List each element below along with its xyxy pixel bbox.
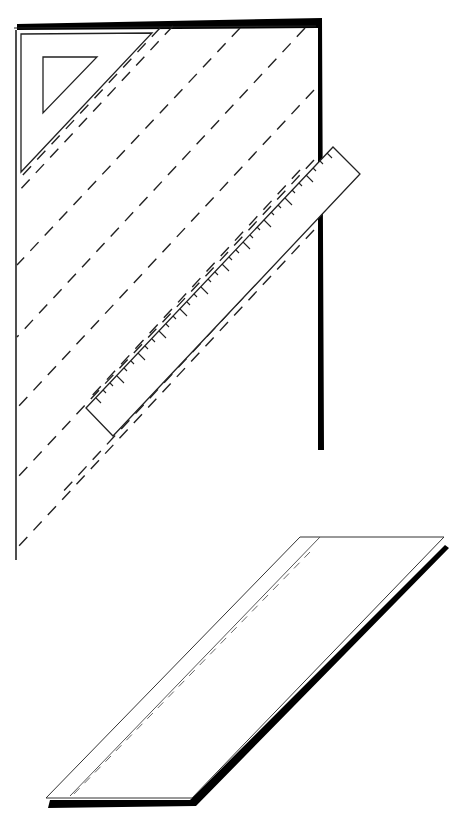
bias-strip (46, 537, 449, 808)
set-square (21, 33, 152, 172)
illustration-canvas (0, 0, 459, 820)
fabric-sheet (14, 18, 324, 560)
bias-lines (17, 26, 315, 548)
bias-cutting-illustration (0, 0, 459, 820)
set-square-outer (21, 33, 152, 172)
set-square-inner (43, 57, 97, 113)
